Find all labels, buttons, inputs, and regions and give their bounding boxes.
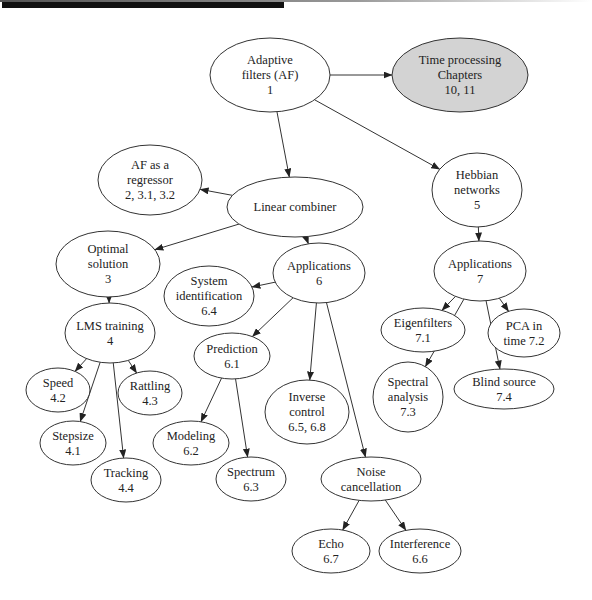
arrow-icon [155, 224, 239, 250]
node-blind: Blind source7.4 [454, 369, 554, 409]
node-label-line: regressor [127, 173, 174, 187]
node-noise: Noisecancellation [321, 457, 421, 501]
edge-app6-to-sysid [252, 282, 275, 287]
node-label-line: Inverse [289, 390, 326, 404]
node-app6: Applications6 [273, 243, 365, 303]
node-modeling: Modeling6.2 [153, 421, 229, 465]
node-label-line: networks [454, 183, 500, 197]
node-label-line: Linear combiner [254, 200, 338, 214]
edge-linear-to-optimal [155, 224, 239, 250]
arrow-icon [113, 363, 123, 458]
arrow-icon [277, 112, 289, 177]
arrow-icon [252, 298, 293, 337]
node-label-line: 6.7 [323, 552, 339, 566]
node-label-line: 7.1 [415, 331, 431, 345]
node-regressor: AF as aregressor2, 3.1, 3.2 [98, 145, 202, 215]
arrow-icon [442, 296, 456, 310]
node-time: Time processingChapters10, 11 [392, 38, 528, 112]
node-label-line: Rattling [130, 379, 171, 393]
node-label-line: PCA in [506, 319, 543, 333]
node-spectral: Spectralanalysis7.3 [373, 362, 443, 432]
edge-af-to-linear [277, 112, 289, 177]
node-label-line: Spectrum [227, 465, 275, 479]
node-label-line: 6.1 [224, 357, 240, 371]
node-eigen: Eigenfilters7.1 [381, 308, 465, 352]
node-label-line: Tracking [104, 466, 149, 480]
node-label-line: Blind source [472, 375, 536, 389]
arrow-icon [252, 282, 275, 287]
edge-app7-to-pca [499, 298, 508, 311]
arrow-icon [200, 189, 232, 195]
arrow-icon [315, 100, 440, 170]
arrow-icon [128, 360, 136, 373]
node-label-line: LMS training [76, 319, 144, 333]
node-hebbian: Hebbiannetworks5 [432, 153, 522, 227]
node-label-line: control [289, 405, 325, 419]
node-label-line: Echo [318, 537, 344, 551]
node-label-line: Spectral [388, 375, 429, 389]
node-label-line: 3 [105, 272, 111, 286]
node-inverse: Inversecontrol6.5, 6.8 [265, 380, 349, 444]
node-tracking: Tracking4.4 [91, 458, 161, 502]
node-label-line: Speed [43, 376, 74, 390]
node-label-line: 4.4 [118, 481, 134, 495]
node-optimal: Optimalsolution3 [56, 231, 160, 297]
node-label-line: Prediction [206, 342, 258, 356]
node-af: Adaptivefilters (AF)1 [210, 38, 330, 112]
node-spectrum: Spectrum6.3 [216, 457, 286, 501]
node-label-line: identification [176, 289, 243, 303]
node-label-line: 6.5, 6.8 [288, 420, 326, 434]
node-label-line: Hebbian [456, 168, 499, 182]
node-label-line: 5 [474, 198, 480, 212]
edge-lms-to-rattling [128, 360, 136, 373]
arrow-icon [385, 500, 406, 530]
node-rattling: Rattling4.3 [118, 371, 182, 415]
node-label-line: cancellation [341, 480, 402, 494]
node-label-line: 6.2 [183, 444, 199, 458]
arrow-icon [478, 227, 479, 241]
node-label-line: Stepsize [52, 429, 94, 443]
node-label-line: Applications [287, 259, 351, 273]
arrow-icon [75, 359, 87, 372]
node-label-line: 6.3 [243, 480, 259, 494]
node-label-line: analysis [388, 390, 428, 404]
edge-linear-to-app6 [306, 237, 309, 244]
edge-noise-to-echo [343, 500, 359, 530]
node-label-line: Modeling [167, 429, 216, 443]
node-label-line: Interference [390, 537, 451, 551]
edge-noise-to-interference [385, 500, 406, 530]
arrow-icon [236, 379, 248, 457]
node-label-line: 6 [316, 274, 322, 288]
node-label-line: Optimal [88, 242, 129, 256]
arrow-icon [306, 237, 309, 244]
node-label-line: 4.3 [142, 394, 158, 408]
node-label-line: 6.6 [412, 552, 428, 566]
node-lms: LMS training4 [65, 303, 155, 363]
edge-lms-to-speed [75, 359, 87, 372]
node-label-line: 4.2 [50, 391, 66, 405]
edge-hebbian-to-app7 [478, 227, 479, 241]
node-sysid: Systemidentification6.4 [164, 266, 254, 326]
node-linear: Linear combiner [227, 177, 363, 237]
concept-diagram: Adaptivefilters (AF)1Time processingChap… [0, 0, 592, 600]
edge-app6-to-inverse [310, 303, 317, 380]
node-label-line: 2, 3.1, 3.2 [125, 188, 175, 202]
edge-app7-to-eigen [442, 296, 456, 310]
node-label-line: Noise [356, 465, 386, 479]
node-label-line: Time processing [419, 53, 502, 67]
edge-lms-to-tracking [113, 363, 123, 458]
node-label-line: filters (AF) [242, 68, 299, 82]
nodes-layer: Adaptivefilters (AF)1Time processingChap… [26, 38, 560, 573]
node-label-line: solution [88, 257, 129, 271]
node-label-line: 7.4 [496, 390, 512, 404]
node-label-line: Chapters [438, 68, 483, 82]
node-label-line: 10, 11 [445, 83, 476, 97]
node-label-line: 7 [477, 272, 483, 286]
edge-af-to-hebbian [315, 100, 440, 170]
node-label-line: Adaptive [247, 53, 293, 67]
edge-prediction-to-modeling [201, 378, 222, 422]
arrow-icon [343, 500, 359, 530]
node-stepsize: Stepsize4.1 [40, 421, 106, 465]
node-label-line: 4.1 [65, 444, 81, 458]
node-label-line: System [191, 274, 228, 288]
